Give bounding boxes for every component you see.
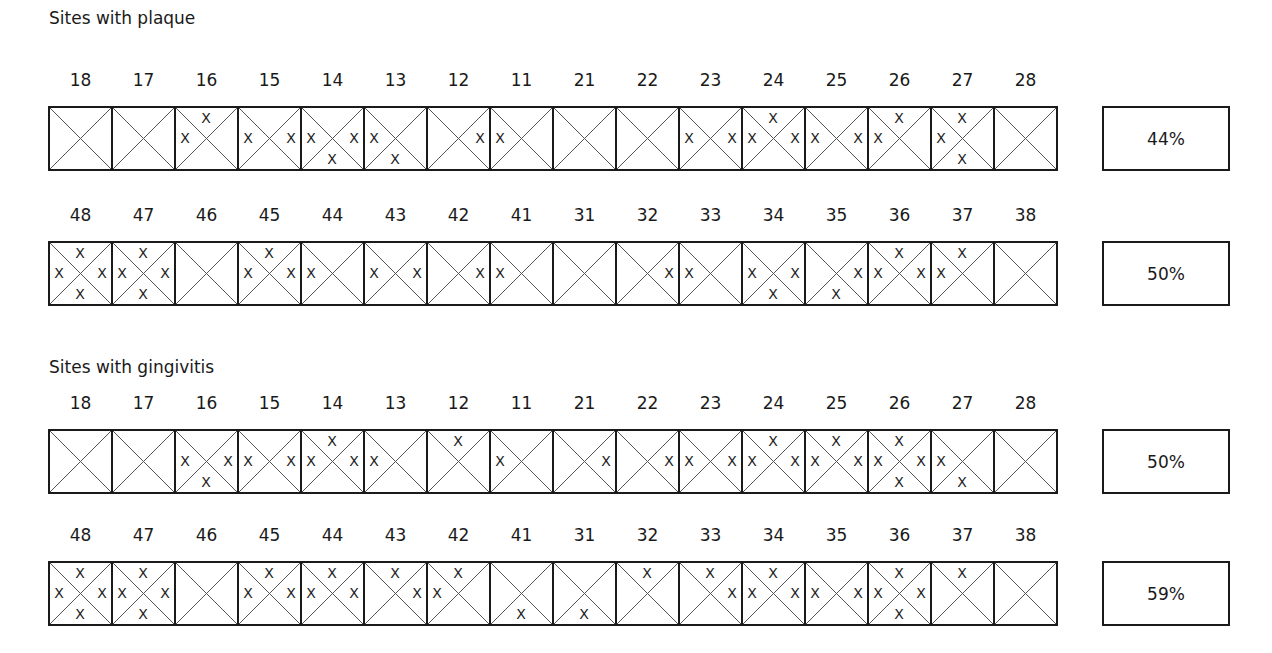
tooth-number: 13 — [364, 393, 427, 413]
site-mark-right: X — [347, 131, 361, 145]
site-mark-bottom: X — [73, 607, 87, 621]
tooth-diagonals-icon — [617, 108, 678, 169]
tooth-box — [176, 243, 239, 304]
site-mark-right: X — [914, 586, 928, 600]
tooth-number: 42 — [427, 525, 490, 545]
site-mark-left: X — [367, 454, 381, 468]
tooth-box: X — [491, 431, 554, 492]
tooth-box: XXX — [239, 563, 302, 624]
site-mark-left: X — [745, 131, 759, 145]
gingivitis-lower-tooth-numbers: 48474645444342413132333435363738 — [49, 525, 1057, 545]
tooth-box — [113, 431, 176, 492]
tooth-box: XX — [365, 563, 428, 624]
site-mark-left: X — [304, 266, 318, 280]
tooth-number: 24 — [742, 70, 805, 90]
tooth-box: XXXX — [113, 243, 176, 304]
tooth-number: 46 — [175, 205, 238, 225]
site-mark-right: X — [851, 131, 865, 145]
tooth-number: 32 — [616, 205, 679, 225]
tooth-number: 28 — [994, 70, 1057, 90]
tooth-number: 46 — [175, 525, 238, 545]
tooth-box: XX — [680, 563, 743, 624]
site-mark-bottom: X — [73, 287, 87, 301]
tooth-number: 45 — [238, 525, 301, 545]
tooth-number: 48 — [49, 205, 112, 225]
site-mark-right: X — [788, 131, 802, 145]
tooth-box: XX — [176, 108, 239, 169]
tooth-number: 26 — [868, 70, 931, 90]
tooth-number: 17 — [112, 70, 175, 90]
tooth-box: XX — [365, 243, 428, 304]
site-mark-left: X — [808, 131, 822, 145]
site-mark-right: X — [158, 586, 172, 600]
site-mark-left: X — [682, 454, 696, 468]
site-mark-bottom: X — [388, 152, 402, 166]
site-mark-bottom: X — [955, 152, 969, 166]
tooth-number: 36 — [868, 205, 931, 225]
site-mark-left: X — [241, 586, 255, 600]
tooth-box — [113, 108, 176, 169]
site-mark-top: X — [892, 111, 906, 125]
tooth-box — [176, 563, 239, 624]
site-mark-bottom: X — [577, 607, 591, 621]
tooth-number: 25 — [805, 70, 868, 90]
tooth-box: XX — [932, 243, 995, 304]
site-mark-left: X — [52, 586, 66, 600]
tooth-box: X — [428, 108, 491, 169]
site-mark-left: X — [745, 586, 759, 600]
tooth-box: X — [491, 243, 554, 304]
site-mark-left: X — [304, 131, 318, 145]
tooth-number: 26 — [868, 393, 931, 413]
tooth-box: XX — [932, 431, 995, 492]
site-mark-left: X — [682, 266, 696, 280]
tooth-number: 14 — [301, 393, 364, 413]
site-mark-right: X — [851, 586, 865, 600]
gingivitis-upper-chart: XXXXXXXXXXXXXXXXXXXXXXXXXXX — [48, 429, 1058, 494]
tooth-number: 22 — [616, 70, 679, 90]
site-mark-left: X — [304, 586, 318, 600]
site-mark-left: X — [871, 131, 885, 145]
tooth-box: XXX — [302, 431, 365, 492]
site-mark-top: X — [262, 566, 276, 580]
site-mark-left: X — [115, 586, 129, 600]
site-mark-bottom: X — [766, 287, 780, 301]
site-mark-right: X — [599, 454, 613, 468]
tooth-box: XX — [365, 108, 428, 169]
tooth-box — [617, 108, 680, 169]
tooth-number: 33 — [679, 205, 742, 225]
site-mark-top: X — [136, 566, 150, 580]
tooth-number: 22 — [616, 393, 679, 413]
tooth-number: 38 — [994, 525, 1057, 545]
tooth-box: XXX — [302, 108, 365, 169]
tooth-number: 44 — [301, 525, 364, 545]
tooth-box: XX — [239, 431, 302, 492]
tooth-number: 45 — [238, 205, 301, 225]
site-mark-left: X — [493, 454, 507, 468]
tooth-number: 27 — [931, 70, 994, 90]
tooth-box: XXX — [806, 431, 869, 492]
tooth-diagonals-icon — [176, 243, 237, 304]
tooth-number: 12 — [427, 393, 490, 413]
tooth-box: X — [365, 431, 428, 492]
site-mark-right: X — [410, 266, 424, 280]
tooth-diagonals-icon — [995, 243, 1056, 304]
site-mark-left: X — [808, 586, 822, 600]
tooth-box: XX — [680, 431, 743, 492]
tooth-box: XXX — [743, 563, 806, 624]
tooth-box — [995, 243, 1056, 304]
site-mark-right: X — [788, 586, 802, 600]
site-mark-bottom: X — [892, 607, 906, 621]
tooth-diagonals-icon — [995, 563, 1056, 624]
site-mark-left: X — [115, 266, 129, 280]
tooth-number: 43 — [364, 205, 427, 225]
tooth-number: 35 — [805, 205, 868, 225]
tooth-box: XXX — [176, 431, 239, 492]
tooth-number: 21 — [553, 70, 616, 90]
site-mark-right: X — [95, 266, 109, 280]
tooth-number: 44 — [301, 205, 364, 225]
tooth-diagonals-icon — [176, 563, 237, 624]
tooth-number: 41 — [490, 205, 553, 225]
gingivitis-upper-percent: 50% — [1102, 429, 1230, 494]
site-mark-top: X — [892, 566, 906, 580]
tooth-number: 11 — [490, 70, 553, 90]
